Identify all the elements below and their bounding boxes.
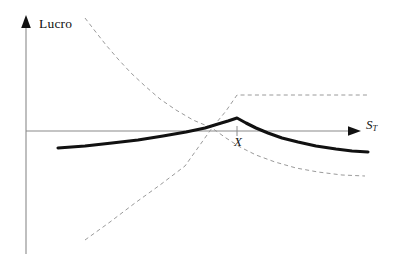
x-axis-label: ST [366, 118, 377, 133]
y-axis-arrowhead [21, 15, 31, 28]
component-curve-increasing-capped [85, 95, 370, 240]
x-axis-subscript: T [373, 123, 378, 133]
strike-price-label: X [234, 135, 242, 148]
payoff-diagram-figure: Lucro ST X [0, 0, 399, 266]
component-curve-decreasing [85, 18, 365, 176]
payoff-chart-canvas [0, 0, 399, 266]
net-profit-curve [58, 118, 368, 152]
y-axis-label: Lucro [39, 17, 72, 31]
x-axis-arrowhead [348, 126, 361, 136]
